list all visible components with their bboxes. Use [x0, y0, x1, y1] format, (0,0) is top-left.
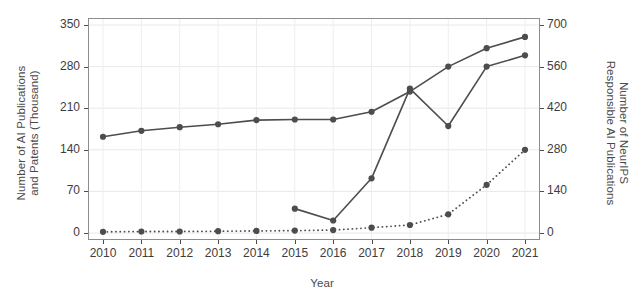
y-tick-label-left: 280 — [40, 59, 80, 73]
data-point — [445, 211, 451, 217]
series-layer — [100, 34, 528, 235]
tick-mark — [84, 67, 88, 68]
data-point — [138, 228, 144, 234]
y-tick-label-left: 350 — [40, 17, 80, 31]
x-tick-label: 2021 — [503, 246, 547, 260]
tick-mark — [333, 240, 334, 244]
tick-mark — [180, 240, 181, 244]
tick-mark — [256, 240, 257, 244]
y-tick-label-left: 210 — [40, 100, 80, 114]
series-line-2 — [103, 150, 525, 232]
data-point — [522, 34, 528, 40]
data-point — [292, 116, 298, 122]
data-point — [330, 116, 336, 122]
data-point — [177, 228, 183, 234]
y-tick-label-left: 140 — [40, 142, 80, 156]
tick-mark — [141, 240, 142, 244]
data-point — [368, 175, 374, 181]
tick-mark — [410, 240, 411, 244]
tick-mark — [103, 240, 104, 244]
data-point — [484, 45, 490, 51]
series-line-0 — [103, 37, 525, 137]
data-point — [484, 182, 490, 188]
y-tick-label-right: 280 — [547, 142, 591, 156]
y-tick-label-left: 0 — [40, 225, 80, 239]
tick-mark — [487, 240, 488, 244]
data-point — [330, 217, 336, 223]
data-point — [100, 229, 106, 235]
y-tick-label-right: 560 — [547, 59, 591, 73]
data-point — [407, 222, 413, 228]
data-point — [445, 123, 451, 129]
data-point — [177, 124, 183, 130]
data-point — [292, 228, 298, 234]
tick-mark — [525, 240, 526, 244]
tick-mark — [540, 25, 544, 26]
y-tick-label-right: 0 — [547, 225, 591, 239]
chart-figure: Number of AI Publications and Patents (T… — [0, 0, 644, 304]
plot-area — [89, 19, 539, 239]
data-point — [368, 109, 374, 115]
data-point — [253, 117, 259, 123]
y-tick-label-right: 700 — [547, 17, 591, 31]
y-tick-label-right: 140 — [547, 183, 591, 197]
data-point — [100, 134, 106, 140]
tick-mark — [84, 233, 88, 234]
data-point — [368, 225, 374, 231]
data-point — [215, 121, 221, 127]
tick-mark — [540, 67, 544, 68]
tick-mark — [372, 240, 373, 244]
tick-mark — [540, 150, 544, 151]
data-point — [138, 128, 144, 134]
data-point — [522, 147, 528, 153]
data-point — [484, 64, 490, 70]
data-point — [253, 228, 259, 234]
data-point — [330, 227, 336, 233]
data-point — [445, 64, 451, 70]
tick-mark — [540, 108, 544, 109]
y-axis-right-title: Number of NeurIPS Responsible AI Publica… — [604, 53, 630, 213]
tick-mark — [84, 150, 88, 151]
tick-mark — [540, 191, 544, 192]
data-point — [522, 52, 528, 58]
tick-mark — [84, 25, 88, 26]
data-point — [215, 228, 221, 234]
data-point — [407, 85, 413, 91]
tick-mark — [540, 233, 544, 234]
x-axis-title: Year — [0, 277, 644, 290]
tick-mark — [84, 191, 88, 192]
tick-mark — [295, 240, 296, 244]
tick-mark — [84, 108, 88, 109]
y-axis-left-title: Number of AI Publications and Patents (T… — [15, 53, 41, 213]
plot-panel — [88, 18, 540, 240]
tick-mark — [448, 240, 449, 244]
y-tick-label-left: 70 — [40, 183, 80, 197]
tick-mark — [218, 240, 219, 244]
data-point — [292, 206, 298, 212]
y-tick-label-right: 420 — [547, 100, 591, 114]
